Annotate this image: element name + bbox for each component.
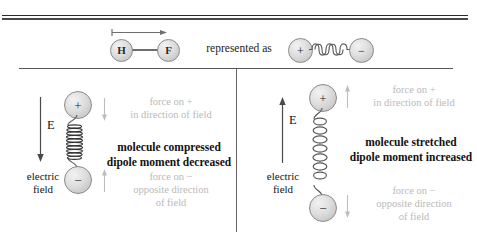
header-positive-charge-label: + xyxy=(297,45,304,57)
top-rule-lower xyxy=(2,18,468,20)
field-label-E-right: E xyxy=(289,113,297,128)
result-note-right-line1: molecule stretched xyxy=(365,136,456,148)
electric-field-arrow-up xyxy=(277,97,288,163)
force-note-negative-left-line3: of field xyxy=(156,197,187,208)
electric-field-caption-right-line1: electric xyxy=(267,170,299,182)
result-note-left: molecule compressed dipole moment decrea… xyxy=(103,140,235,170)
force-note-positive-left: force on + in direction of field xyxy=(110,95,232,121)
panel-field-down: E electric field + xyxy=(0,69,236,232)
atom-fluorine: F xyxy=(157,39,180,62)
hf-bond-line xyxy=(130,49,158,51)
atom-hydrogen: H xyxy=(110,39,133,62)
result-note-right: molecule stretched dipole moment increas… xyxy=(345,135,477,165)
force-arrow-negative-down xyxy=(343,195,352,219)
right-negative-charge: − xyxy=(309,194,337,222)
result-note-left-line1: molecule compressed xyxy=(117,141,221,153)
dipole-moment-arrow xyxy=(110,28,168,37)
force-note-negative-right-line1: force on − xyxy=(392,185,435,196)
force-note-positive-right-line1: force on + xyxy=(392,84,435,95)
represented-as-label: represented as xyxy=(196,42,282,54)
header-bond-spring xyxy=(309,40,351,59)
force-note-positive-left-line1: force on + xyxy=(149,96,192,107)
force-note-negative-left-line1: force on − xyxy=(149,171,192,182)
force-note-positive-right: force on + in direction of field xyxy=(353,83,475,109)
force-note-positive-left-line2: in direction of field xyxy=(130,109,211,120)
top-rule-upper xyxy=(2,15,468,16)
result-note-left-line2: dipole moment decreased xyxy=(107,156,231,168)
header-negative-charge: − xyxy=(349,38,374,63)
electric-field-caption-right: electric field xyxy=(250,170,316,195)
force-arrow-positive-up xyxy=(343,85,352,109)
header-negative-charge-label: − xyxy=(358,45,365,57)
force-note-negative-left: force on − opposite direction of field xyxy=(110,170,232,209)
left-negative-charge-label: − xyxy=(74,174,81,187)
atom-fluorine-label: F xyxy=(165,45,172,56)
force-arrow-positive-down xyxy=(100,98,109,122)
force-note-negative-right-line3: of field xyxy=(399,211,430,222)
force-arrow-negative-up xyxy=(100,169,109,193)
cut-off-caption xyxy=(18,0,318,8)
right-negative-charge-label: − xyxy=(319,202,326,215)
left-positive-charge-label: + xyxy=(74,99,81,112)
stretched-spring xyxy=(308,108,336,196)
atom-hydrogen-label: H xyxy=(117,45,126,56)
force-note-positive-right-line2: in direction of field xyxy=(373,97,454,108)
electric-field-caption-left-line2: field xyxy=(33,183,53,195)
force-note-negative-left-line2: opposite direction xyxy=(133,184,209,195)
force-note-negative-right-line2: opposite direction xyxy=(376,198,452,209)
electric-field-caption-left-line1: electric xyxy=(27,170,59,182)
left-negative-charge: − xyxy=(64,166,92,194)
compressed-spring xyxy=(63,115,91,168)
field-label-E-left: E xyxy=(47,118,55,133)
force-note-negative-right: force on − opposite direction of field xyxy=(353,184,475,223)
right-positive-charge-label: + xyxy=(319,92,326,105)
electric-field-caption-right-line2: field xyxy=(273,183,293,195)
result-note-right-line2: dipole moment increased xyxy=(350,151,472,163)
panel-field-up: E electric field + xyxy=(237,69,470,232)
electric-field-arrow-down xyxy=(35,97,46,163)
